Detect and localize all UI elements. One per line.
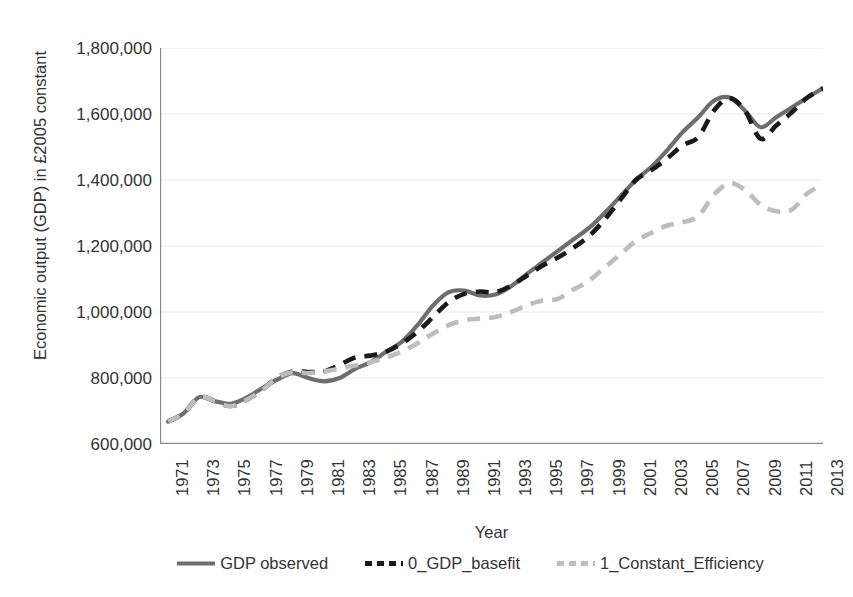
x-axis-tick-label: 1979 xyxy=(299,459,316,496)
x-axis-tick-label: 1977 xyxy=(268,459,285,496)
x-axis-tick-label: 2013 xyxy=(829,459,846,496)
x-axis-tick-label: 2007 xyxy=(735,459,752,496)
x-axis-tick-label: 1999 xyxy=(611,459,628,496)
x-axis-tick-label: 2001 xyxy=(642,459,659,496)
x-axis-tick-label: 1983 xyxy=(361,459,378,496)
legend-item[interactable]: 1_Constant_Efficiency xyxy=(556,554,764,573)
x-axis-tick-label: 1975 xyxy=(236,459,253,496)
x-axis-tick-label: 2009 xyxy=(767,459,784,496)
x-axis-title: Year xyxy=(160,523,823,542)
x-axis-tick-label: 1995 xyxy=(548,459,565,496)
dashed-lightgray-line-icon xyxy=(556,557,596,570)
legend-item[interactable]: 0_GDP_basefit xyxy=(364,554,520,573)
legend-item[interactable]: GDP observed xyxy=(176,554,328,573)
x-axis-tick-label: 1987 xyxy=(424,459,441,496)
x-axis-tick-label: 1997 xyxy=(579,459,596,496)
x-axis-tick-label: 2005 xyxy=(704,459,721,496)
legend-label: 1_Constant_Efficiency xyxy=(600,554,764,573)
legend-label: 0_GDP_basefit xyxy=(408,554,520,573)
x-axis-tick-label: 1981 xyxy=(330,459,347,496)
x-axis-tick-labels: 1971197319751977197919811983198519871989… xyxy=(0,0,853,597)
chart-legend: GDP observed0_GDP_basefit1_Constant_Effi… xyxy=(120,550,820,576)
x-axis-tick-label: 2003 xyxy=(673,459,690,496)
x-axis-tick-label: 1973 xyxy=(205,459,222,496)
x-axis-tick-label: 1971 xyxy=(174,459,191,496)
x-axis-tick-label: 2011 xyxy=(798,461,815,496)
x-axis-tick-label: 1989 xyxy=(455,459,472,496)
legend-label: GDP observed xyxy=(220,554,328,573)
x-axis-tick-label: 1993 xyxy=(517,459,534,496)
x-axis-tick-label: 1991 xyxy=(486,459,503,496)
dashed-black-line-icon xyxy=(364,557,404,570)
x-axis-tick-label: 1985 xyxy=(392,459,409,496)
gdp-line-chart: Economic output (GDP) in £2005 constant … xyxy=(0,0,853,597)
solid-gray-line-icon xyxy=(176,557,216,570)
